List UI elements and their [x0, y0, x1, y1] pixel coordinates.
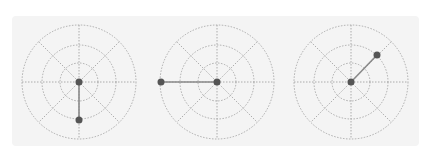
dial-2 [158, 25, 275, 139]
dial-1 [22, 25, 136, 139]
dial-3 [294, 25, 408, 139]
center-dot [348, 79, 355, 86]
center-dot [76, 79, 83, 86]
polar-dials-canvas [0, 0, 427, 157]
handle-dot[interactable] [76, 117, 83, 124]
center-dot [214, 79, 221, 86]
handle-dot[interactable] [374, 52, 381, 59]
stick-line [351, 55, 377, 82]
handle-dot[interactable] [158, 79, 165, 86]
